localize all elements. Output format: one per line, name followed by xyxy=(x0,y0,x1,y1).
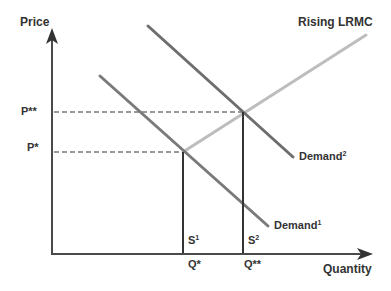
s1-label: S1 xyxy=(188,235,199,246)
lrmc-label: Rising LRMC xyxy=(298,16,373,28)
q-double-star-label: Q** xyxy=(244,259,261,270)
demand2-sup: 2 xyxy=(342,150,346,157)
demand1-text: Demand xyxy=(274,219,317,231)
s2-label: S2 xyxy=(248,235,259,246)
demand2-text: Demand xyxy=(299,150,342,162)
y-axis-label: Price xyxy=(20,16,49,28)
x-axis-label: Quantity xyxy=(323,263,372,275)
p-double-star-label: P** xyxy=(21,106,37,117)
q-star-label: Q* xyxy=(188,259,201,270)
demand1-sup: 1 xyxy=(317,219,321,226)
s2-sup: 2 xyxy=(255,234,259,241)
p-star-label: P* xyxy=(27,142,39,153)
chart-canvas xyxy=(0,0,391,291)
demand1-label: Demand1 xyxy=(274,220,321,231)
lrmc-line xyxy=(183,35,366,152)
demand2-label: Demand2 xyxy=(299,151,346,162)
s1-sup: 1 xyxy=(195,234,199,241)
